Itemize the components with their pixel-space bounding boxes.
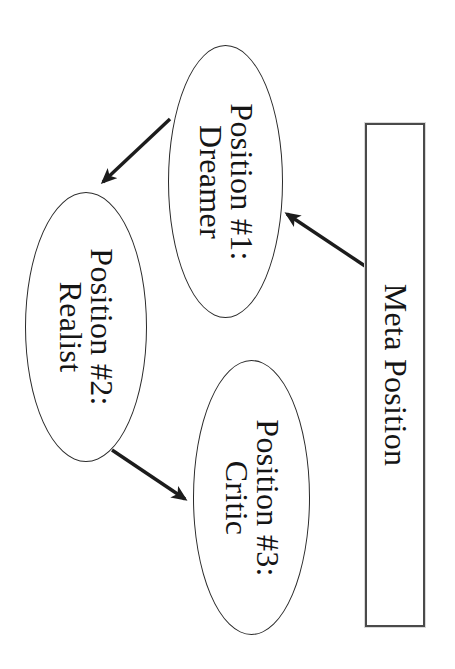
node-position-1-line1: Position #1:	[226, 103, 257, 260]
arrow-realist-to-critic	[112, 450, 185, 499]
node-meta-position: Meta Position	[365, 123, 425, 627]
node-meta-position-text: Meta Position	[379, 284, 410, 467]
arrow-dreamer-to-realist	[103, 119, 170, 182]
node-position-1-dreamer: Position #1: Dreamer	[168, 45, 283, 318]
node-position-1-text: Position #1: Dreamer	[194, 103, 256, 260]
arrow-meta-to-dreamer	[287, 214, 365, 266]
node-position-2-realist: Position #2: Realist	[25, 192, 147, 462]
node-position-3-line1: Position #3:	[252, 419, 283, 576]
node-position-2-line1: Position #2:	[86, 248, 117, 405]
node-position-2-text: Position #2: Realist	[55, 248, 117, 405]
node-position-3-line2: Critic	[220, 419, 251, 576]
node-meta-position-label: Meta Position	[379, 284, 410, 467]
node-position-1-line2: Dreamer	[194, 103, 225, 260]
node-position-2-line2: Realist	[55, 248, 86, 405]
node-position-3-text: Position #3: Critic	[220, 419, 282, 576]
diagram-canvas: Position #1: Dreamer Position #2: Realis…	[0, 0, 455, 669]
node-position-3-critic: Position #3: Critic	[193, 360, 310, 635]
